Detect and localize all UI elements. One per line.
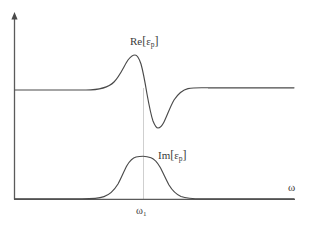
resonance-label-base: ω [136, 205, 143, 216]
curve-label-imaginary: Im[εp] [158, 146, 187, 163]
y-axis-arrowhead-icon [11, 12, 17, 20]
x-axis-label: ω [288, 182, 295, 193]
real-part-curve [15, 55, 294, 128]
real-label-close-bracket: ] [155, 34, 159, 48]
lorentz-dielectric-figure: Re[εp] Im[εp] ω ω1 [0, 0, 309, 227]
real-label-base: Re [130, 35, 142, 47]
imaginary-label-close-bracket: ] [183, 148, 187, 162]
imaginary-label-base: Im [158, 149, 170, 161]
resonance-frequency-label: ω1 [136, 201, 146, 218]
imaginary-part-curve [15, 156, 294, 199]
curve-label-real: Re[εp] [130, 32, 159, 49]
resonance-label-subscript: 1 [143, 210, 147, 218]
